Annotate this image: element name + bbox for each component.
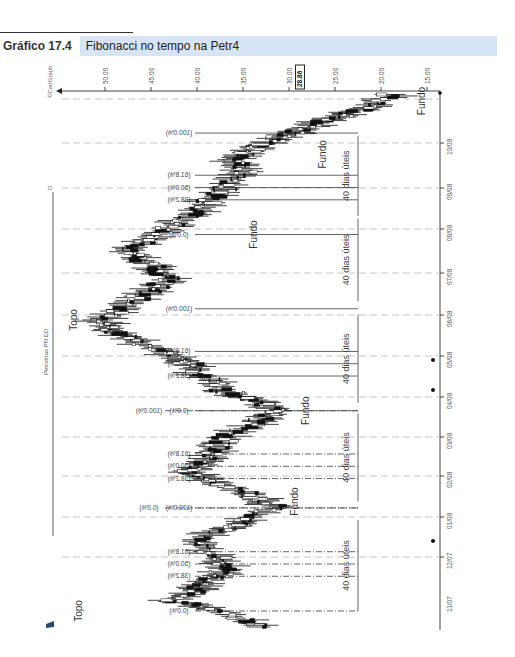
price-candle [135,240,142,243]
price-candle [248,419,249,422]
fibonacci-level-label: (100.0%) [166,305,192,313]
price-candle [129,258,139,261]
price-candle [91,318,92,321]
price-candle [211,534,212,537]
price-candle [241,161,244,164]
price-candle [250,618,254,621]
range-label: 40 dias úteis [341,150,351,201]
price-candle [167,274,169,277]
price-candle [272,508,276,511]
event-marker-dot [431,358,435,362]
price-candle [278,504,286,507]
price-candle [252,513,255,516]
price-candle [216,433,229,436]
price-candle [233,166,237,169]
price-candle [373,105,376,108]
price-candle [221,556,232,559]
price-candle [219,382,226,385]
price-candle [213,186,215,189]
price-candle [166,286,169,289]
price-tick-label: 25.00 [332,67,339,84]
fibonacci-level-label: (38.2%) [168,572,191,580]
price-candle [148,347,151,350]
price-candle [100,315,104,318]
price-candle [391,94,399,97]
price-candle [158,278,162,281]
price-candle [144,238,155,241]
price-candle [220,181,227,184]
price-candle [107,310,114,313]
price-tick-label: 40.00 [194,67,201,84]
price-candle [218,185,224,188]
price-candle [195,538,206,541]
price-candle [209,570,212,573]
price-candle [210,456,213,459]
price-candle [148,271,157,274]
axis-origin-dot [438,91,442,95]
price-candle [241,495,242,498]
range-label: 40 dias úteis [341,540,351,591]
price-candle [174,222,179,225]
time-tick-label: 12/07 [446,552,453,569]
price-candle [148,267,157,270]
price-candle [204,201,221,204]
fibonacci-level-label: (100.0%) [166,129,192,137]
price-candle [237,176,238,179]
price-candle [234,520,235,523]
price-candle [145,261,146,264]
fibonacci-level-label: (50.0%) [168,560,191,568]
chart-annotation: Fundo [300,396,311,425]
price-candle [105,314,118,317]
price-candle [137,253,145,256]
time-tick-label: 04/08 [446,392,453,409]
event-marker-dot [431,539,435,543]
price-candle [229,429,230,432]
price-candle [196,200,199,203]
time-tick-label: 05/08 [446,351,453,368]
price-candle [234,172,238,175]
time-tick-label: 02/08 [446,471,453,488]
price-candle [202,454,206,457]
price-candle [130,249,138,252]
price-candle [155,226,160,229]
axis-arrow-icon [56,88,62,94]
price-candle [245,424,251,427]
price-candle [223,160,224,163]
price-candle [219,377,220,380]
price-candle [225,447,229,450]
price-candle [209,547,210,550]
price-candle [134,296,144,299]
price-candle [233,430,243,433]
price-candle [205,537,210,540]
price-candle [145,298,151,301]
price-candle [206,552,212,555]
price-tick-label: 50.00 [102,67,109,84]
price-candle [190,207,195,210]
price-candle [135,335,137,338]
price-candle [197,550,203,553]
chart-annotation: Topo [68,309,79,331]
time-tick-label: 07/08 [446,268,453,285]
price-candle [203,203,204,206]
price-candle [206,544,208,547]
price-candle [205,444,214,447]
price-candle [215,453,223,456]
corner-mark: D [47,185,53,190]
range-label: 40 dias úteis [341,234,351,285]
fibonacci-level-label: (61.8%) [168,548,191,556]
price-candle [216,380,219,383]
price-candle [199,198,206,201]
fibonacci-level-label: (0.0%) [169,607,188,615]
price-candle [233,179,238,182]
price-candle [203,460,206,463]
price-candle [238,487,242,490]
price-candle [197,363,204,366]
price-candle [209,379,210,382]
price-candle [152,287,155,290]
price-candle [229,439,238,442]
price-candle [189,466,191,469]
price-candle [164,352,174,355]
price-candle [182,224,185,227]
price-candle [139,292,142,295]
price-candle [156,349,165,352]
